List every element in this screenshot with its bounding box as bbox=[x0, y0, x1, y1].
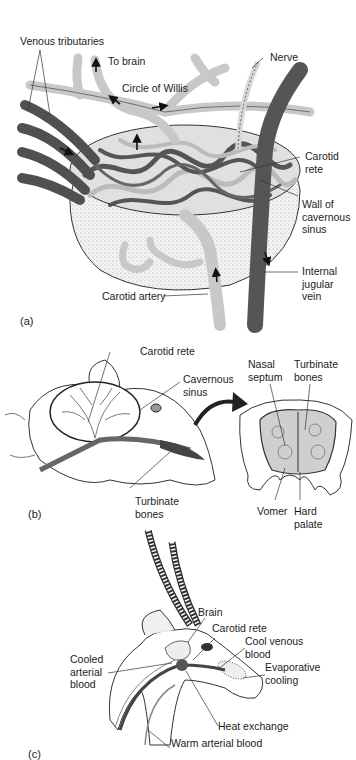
label-circle-of-willis: Circle of Willis bbox=[122, 82, 188, 95]
label-turbinate-bones-head: Turbinate bones bbox=[135, 495, 179, 520]
label-carotid-artery: Carotid artery bbox=[102, 290, 166, 303]
label-brain: Brain bbox=[198, 606, 223, 619]
label-carotid-rete-c: Carotid rete bbox=[212, 622, 267, 635]
label-nasal-septum: Nasal septum bbox=[248, 358, 282, 383]
label-to-brain: To brain bbox=[108, 55, 145, 68]
label-evaporative-cooling: Evaporative cooling bbox=[265, 661, 320, 686]
label-carotid-rete: Carotid rete bbox=[305, 150, 339, 175]
label-nerve: Nerve bbox=[270, 51, 298, 64]
label-cooled-arterial-blood: Cooled arterial blood bbox=[70, 653, 103, 691]
label-vomer: Vomer bbox=[257, 505, 287, 518]
label-cool-venous-blood: Cool venous blood bbox=[245, 635, 303, 660]
label-internal-jugular-vein: Internal jugular vein bbox=[302, 265, 337, 303]
label-venous-tributaries: Venous tributaries bbox=[20, 35, 104, 48]
label-carotid-rete-b: Carotid rete bbox=[140, 345, 195, 358]
panel-c-tag: (c) bbox=[28, 748, 41, 760]
panel-a-tag: (a) bbox=[20, 315, 33, 327]
label-heat-exchange: Heat exchange bbox=[218, 720, 289, 733]
label-warm-arterial-blood: Warm arterial blood bbox=[171, 737, 262, 750]
label-turbinate-bones-section: Turbinate bones bbox=[294, 358, 338, 383]
label-wall-of-cavernous-sinus: Wall of cavernous sinus bbox=[302, 198, 350, 236]
panel-b-tag: (b) bbox=[28, 508, 41, 520]
panel-c-gazelle-cooling: Brain Carotid rete Cool venous blood Coo… bbox=[0, 530, 356, 759]
label-cavernous-sinus: Cavernous sinus bbox=[183, 373, 234, 398]
label-hard-palate: Hard palate bbox=[294, 505, 323, 530]
panel-b-head-section: Carotid rete Cavernous sinus Turbinate b… bbox=[0, 340, 356, 530]
panel-a-carotid-rete-detail: Venous tributaries To brain Circle of Wi… bbox=[0, 0, 356, 340]
